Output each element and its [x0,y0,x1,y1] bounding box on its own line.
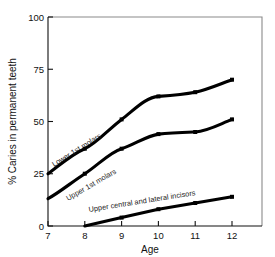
x-tick-label-10: 10 [153,230,164,241]
y-tick-label-100: 100 [28,12,44,23]
y-tick-label-0: 0 [39,221,44,232]
x-tick-label-12: 12 [227,230,238,241]
y-tick-label-50: 50 [33,116,44,127]
y-tick-label-75: 75 [33,64,44,75]
x-tick-label-9: 9 [119,230,124,241]
chart-figure: 0 25 50 75 100 7 8 9 10 11 12 Age % Cari… [0,0,275,257]
x-axis-title: Age [141,244,159,255]
y-axis-title: % Caries in permanent teeth [7,58,18,185]
x-tick-label-8: 8 [82,230,87,241]
x-tick-label-11: 11 [190,230,200,241]
caries-by-age-line-chart: 0 25 50 75 100 7 8 9 10 11 12 Age % Cari… [0,0,275,257]
x-tick-label-7: 7 [45,230,50,241]
chart-background [0,0,275,257]
y-tick-label-25: 25 [33,168,44,179]
